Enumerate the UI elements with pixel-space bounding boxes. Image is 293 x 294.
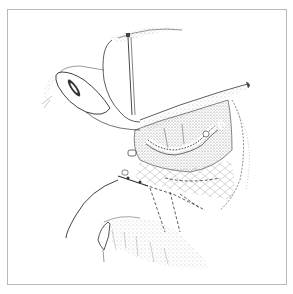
- leaf-feature: [98, 222, 110, 262]
- upper-band: [110, 27, 185, 41]
- nodules: [122, 150, 136, 175]
- oval-structure: [42, 72, 140, 130]
- lower-mass: [100, 217, 210, 269]
- anatomical-illustration: [0, 0, 293, 294]
- vertical-stalk: [126, 33, 135, 115]
